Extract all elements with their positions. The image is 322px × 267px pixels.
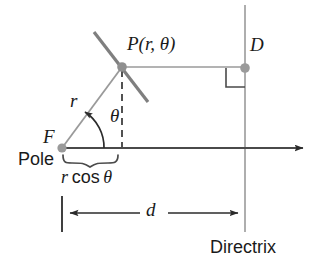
r-cos-theta-theta: θ [103,167,112,187]
point-D [240,63,250,73]
pole-F-label: F [43,127,55,146]
polar-conic-diagram: P(r, θ) D r θ F Pole r cos θ d Directrix [0,0,322,267]
angle-theta-label: θ [110,106,119,125]
r-cos-theta-label: r cos θ [61,168,112,186]
angle-arc [85,112,104,148]
r-cos-theta-r: r [61,167,68,187]
pole-point-F [57,143,66,152]
point-D-label: D [250,35,264,54]
r-cos-theta-cos: cos [72,167,100,187]
pole-text-label: Pole [18,150,54,168]
radius-label: r [70,91,77,110]
distance-d-label: d [146,200,156,219]
point-P-label: P(r, θ) [127,34,175,53]
brace-r-cos-theta [63,155,118,167]
directrix-label: Directrix [210,238,276,256]
point-P [117,62,127,72]
